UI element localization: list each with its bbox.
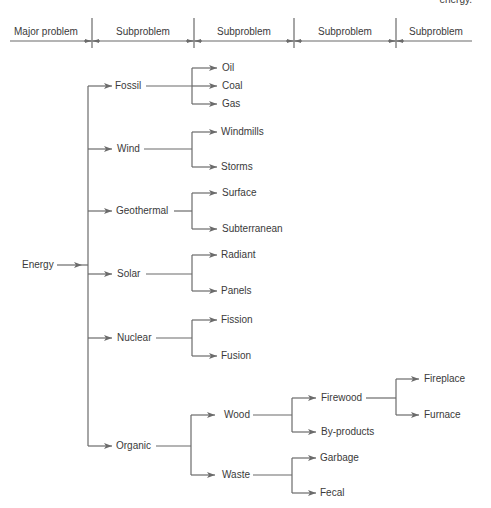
node-energy: Energy (22, 259, 54, 271)
node-fusion: Fusion (221, 350, 251, 362)
node-subterranean: Subterranean (222, 223, 283, 235)
header-subproblem-3: Subproblem (305, 26, 385, 38)
node-fireplace: Fireplace (424, 373, 465, 385)
node-panels: Panels (221, 285, 252, 297)
node-firewood: Firewood (321, 392, 362, 404)
node-nuclear: Nuclear (117, 332, 151, 344)
node-solar: Solar (117, 268, 140, 280)
node-fecal: Fecal (320, 487, 344, 499)
header-subproblem-2: Subproblem (204, 26, 284, 38)
node-surface: Surface (222, 187, 256, 199)
node-storms: Storms (221, 161, 253, 173)
energy-problem-tree-diagram: energy. (0, 0, 491, 508)
header-subproblem-1: Subproblem (103, 26, 183, 38)
node-geothermal: Geothermal (116, 205, 168, 217)
node-fission: Fission (221, 314, 253, 326)
node-fossil: Fossil (115, 80, 141, 92)
node-organic: Organic (116, 440, 151, 452)
node-waste: Waste (222, 469, 250, 481)
node-oil: Oil (222, 62, 234, 74)
header-major-problem: Major problem (6, 26, 86, 38)
node-furnace: Furnace (424, 409, 461, 421)
node-windmills: Windmills (221, 126, 264, 138)
node-coal: Coal (222, 80, 243, 92)
node-wood: Wood (224, 409, 250, 421)
node-gas: Gas (222, 98, 240, 110)
node-radiant: Radiant (221, 249, 255, 261)
node-garbage: Garbage (320, 452, 359, 464)
header-subproblem-4: Subproblem (396, 26, 476, 38)
node-by-products: By-products (321, 426, 374, 438)
node-wind: Wind (117, 143, 140, 155)
